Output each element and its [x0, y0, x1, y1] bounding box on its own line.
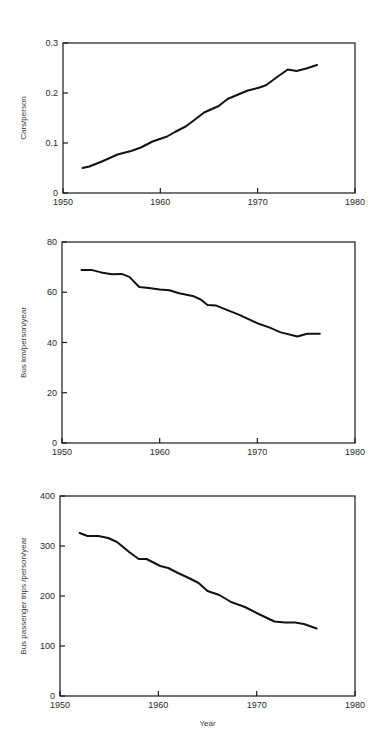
y-tick-label: 0 [50, 691, 55, 701]
data-series-line [83, 65, 318, 168]
x-tick-label: 1950 [53, 197, 73, 207]
plot-frame [60, 496, 355, 696]
data-series-line [82, 270, 320, 337]
y-axis-title: Bus km/person/year [19, 307, 28, 378]
y-tick-label: 40 [47, 338, 57, 348]
x-tick-label: 1980 [345, 700, 365, 710]
y-axis-title: Bus passenger trips /person/year [19, 537, 28, 655]
figure: 195019601970198000.10.20.3Cars/person 19… [0, 0, 381, 754]
x-tick-label: 1960 [150, 447, 170, 457]
y-tick-label: 0 [53, 188, 58, 198]
x-tick-label: 1960 [148, 700, 168, 710]
y-tick-label: 200 [40, 591, 55, 601]
y-tick-label: 100 [40, 641, 55, 651]
x-tick-label: 1950 [50, 700, 70, 710]
y-tick-label: 0.1 [45, 138, 58, 148]
x-tick-label: 1960 [150, 197, 170, 207]
x-tick-label: 1980 [345, 447, 365, 457]
y-tick-label: 300 [40, 541, 55, 551]
bus-km-per-person-chart: 1950196019701980020406080Bus km/person/y… [19, 237, 365, 457]
plot-frame [63, 43, 355, 193]
x-tick-label: 1970 [248, 197, 268, 207]
x-tick-label: 1970 [247, 700, 267, 710]
plot-frame [62, 242, 355, 443]
y-tick-label: 0 [52, 438, 57, 448]
y-tick-label: 0.2 [45, 88, 58, 98]
y-tick-label: 20 [47, 388, 57, 398]
y-tick-label: 80 [47, 237, 57, 247]
cars-per-person-chart: 195019601970198000.10.20.3Cars/person [19, 38, 365, 207]
y-tick-label: 60 [47, 287, 57, 297]
data-series-line [80, 533, 317, 629]
y-axis-title: Cars/person [19, 96, 28, 140]
x-tick-label: 1980 [345, 197, 365, 207]
x-axis-title: Year [199, 719, 216, 728]
bus-passenger-trips-chart: 19501960197019800100200300400Bus passeng… [19, 491, 365, 728]
x-tick-label: 1950 [52, 447, 72, 457]
y-tick-label: 0.3 [45, 38, 58, 48]
y-tick-label: 400 [40, 491, 55, 501]
x-tick-label: 1970 [247, 447, 267, 457]
